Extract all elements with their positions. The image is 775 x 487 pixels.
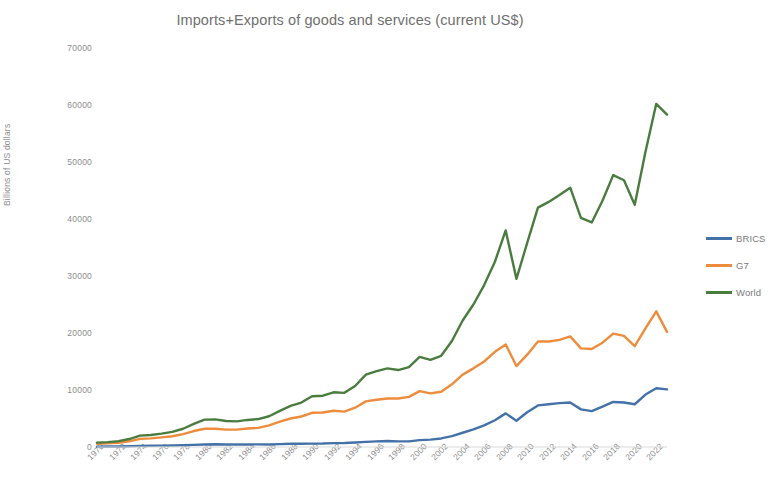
line-chart: Imports+Exports of goods and services (c… <box>0 0 775 487</box>
plot-area <box>0 0 775 487</box>
series-line-g7 <box>97 311 667 443</box>
series-line-world <box>97 104 667 443</box>
legend-label: World <box>736 287 761 298</box>
chart-legend: BRICSG7World <box>706 225 775 306</box>
legend-label: BRICS <box>736 233 766 244</box>
legend-item-world[interactable]: World <box>706 279 775 306</box>
legend-swatch-icon <box>706 291 732 294</box>
legend-swatch-icon <box>706 237 732 240</box>
series-lines <box>97 104 667 447</box>
legend-swatch-icon <box>706 264 732 267</box>
legend-item-g7[interactable]: G7 <box>706 252 775 279</box>
legend-item-brics[interactable]: BRICS <box>706 225 775 252</box>
legend-label: G7 <box>736 260 749 271</box>
series-line-brics <box>97 388 667 446</box>
